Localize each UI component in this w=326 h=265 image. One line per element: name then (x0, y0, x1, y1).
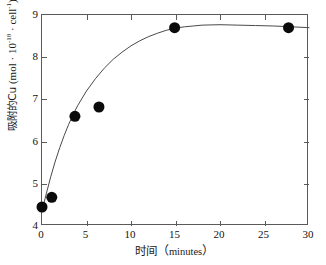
y-axis-title-unit-mid: · cell (6, 9, 18, 34)
y-axis-title: 吸附的Cu (mol · 10-18 · cell-1) (4, 0, 20, 180)
axis-ticks (42, 15, 309, 226)
chart-figure: 吸附的Cu (mol · 10-18 · cell-1) 456789 0510… (0, 0, 326, 265)
x-tick-label: 30 (303, 229, 314, 240)
x-axis-title-close-paren: ） (202, 244, 214, 258)
y-tick-label: 9 (33, 9, 39, 20)
y-axis-title-exponent-2: -1 (5, 3, 13, 9)
plot-area (41, 14, 308, 225)
data-point-marker (37, 202, 48, 213)
y-axis-title-cjk: 吸附的Cu (6, 87, 18, 131)
y-tick-label: 8 (33, 51, 39, 62)
fitted-curve (42, 25, 309, 212)
data-point-marker (69, 111, 80, 122)
y-tick-label: 5 (33, 177, 39, 188)
data-points (37, 22, 295, 212)
x-axis-title-unit: minutes (169, 246, 202, 257)
x-axis-title: 时间（minutes） (41, 245, 308, 258)
x-axis-title-cjk: 时间 (135, 244, 157, 258)
x-tick-label: 10 (125, 229, 136, 240)
y-tick-label: 4 (33, 220, 39, 231)
x-tick-label: 25 (258, 229, 269, 240)
plot-canvas (42, 15, 309, 226)
x-axis-title-open-paren: （ (157, 244, 169, 258)
data-point-marker (46, 192, 57, 203)
x-tick-label: 5 (83, 229, 89, 240)
data-point-marker (283, 22, 294, 33)
x-tick-label: 15 (169, 229, 180, 240)
x-tick-label: 20 (214, 229, 225, 240)
y-tick-label: 7 (33, 93, 39, 104)
data-point-marker (93, 102, 104, 113)
x-tick-label: 0 (38, 229, 44, 240)
y-axis-title-unit-prefix: (mol · 10 (6, 43, 18, 87)
data-point-marker (169, 22, 180, 33)
y-tick-label: 6 (33, 135, 39, 146)
y-axis-title-exponent-1: -18 (5, 34, 13, 43)
y-axis-title-unit-suffix: ) (6, 0, 18, 3)
